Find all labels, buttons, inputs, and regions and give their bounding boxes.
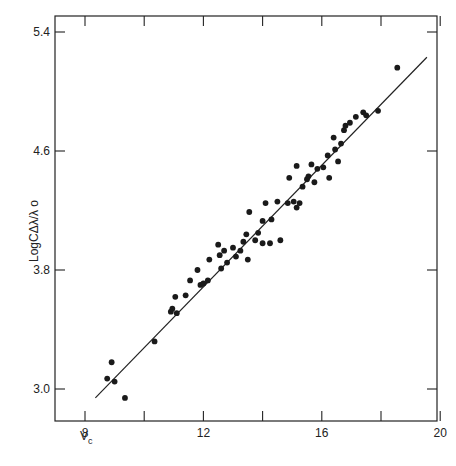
y-axis-label: LogCΔλ/λ o [27,200,41,262]
data-point [325,153,331,159]
scatter-chart: 81216203.03.84.65.4 V c LogCΔλ/λ o [0,0,456,466]
data-point [187,278,193,284]
data-point [285,200,291,206]
y-axis-label-text: LogCΔλ/λ o [27,200,41,262]
data-point [338,141,344,147]
data-point [112,379,118,385]
data-point [233,254,239,260]
data-points [104,65,400,401]
y-tick-label: 5.4 [33,25,50,39]
data-point [331,135,337,141]
data-point [183,292,189,298]
data-point [230,245,236,251]
x-tick-label: 16 [315,426,329,440]
y-tick-label: 4.6 [33,144,50,158]
x-tick-label: 12 [197,426,211,440]
data-point [246,209,252,215]
data-point [221,248,227,254]
data-point [122,395,128,401]
data-point [152,339,158,345]
data-point [306,173,312,179]
y-tick-label: 3.8 [33,263,50,277]
data-point [195,267,201,273]
axis-ticks: 81216203.03.84.65.4 [33,16,447,440]
data-point [297,200,303,206]
data-point [332,147,338,153]
data-point [245,257,251,263]
data-point [215,242,221,248]
data-point [291,199,297,205]
data-point [174,310,180,316]
y-tick-label: 3.0 [33,382,50,396]
data-point [300,184,306,190]
data-point [218,266,224,272]
data-point [260,218,266,224]
data-point [294,163,300,169]
data-point [363,112,369,118]
x-tick-label: 20 [434,426,448,440]
data-point [104,376,110,382]
data-point [353,114,359,120]
data-point [263,200,269,206]
data-point [326,175,332,181]
data-point [275,199,281,205]
data-point [205,278,211,284]
data-point [255,230,261,236]
data-point [224,260,230,266]
data-point [309,161,315,167]
data-point [267,240,273,246]
data-point [269,217,275,223]
data-point [217,252,223,258]
data-point [243,231,249,237]
data-point [260,240,266,246]
data-point [375,108,381,114]
data-point [314,166,320,172]
data-point [335,159,341,165]
data-point [206,257,212,263]
data-point [286,175,292,181]
data-point [394,65,400,71]
data-point [347,120,353,126]
x-axis-label: V c [80,429,93,446]
x-axis-label-subscript: c [88,436,93,446]
data-point [320,164,326,170]
data-point [169,306,175,312]
data-point [238,248,244,254]
data-point [277,237,283,243]
data-point [109,359,115,365]
data-point [252,237,258,243]
data-point [172,294,178,300]
data-point [312,179,318,185]
x-axis-label-main: V [80,429,88,443]
data-point [240,239,246,245]
